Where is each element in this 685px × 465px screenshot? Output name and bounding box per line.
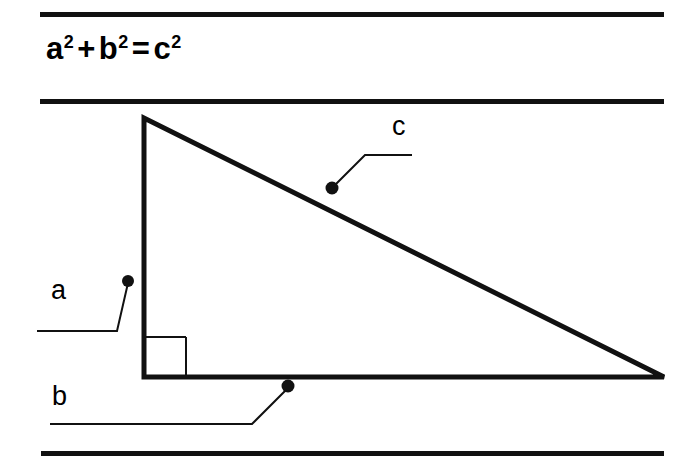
leader-line-c-path [332, 155, 412, 188]
leader-dot-b-icon [282, 380, 295, 393]
leader-line-b-path [50, 388, 288, 424]
leader-dot-c-icon [326, 182, 339, 195]
triangle-outline [144, 118, 664, 377]
triangle-label-a: a [51, 277, 66, 304]
right-triangle-diagram [0, 0, 685, 465]
pythagorean-theorem-figure: a2+b2=c2 a b c [0, 0, 685, 465]
triangle-label-c: c [392, 113, 406, 140]
horizontal-rule-bottom [41, 451, 664, 456]
triangle-label-b: b [52, 383, 67, 410]
right-angle-marker-icon [146, 337, 186, 377]
leader-dot-a-icon [122, 275, 134, 287]
